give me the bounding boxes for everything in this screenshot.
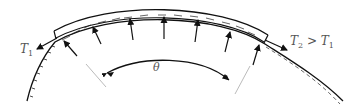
normal-force-arrow [64, 41, 77, 56]
belt-friction-diagram: T1 T2 > T1 θ [0, 0, 360, 111]
surface-hatching-left [30, 46, 55, 97]
normal-force-arrow [253, 45, 259, 65]
radial-line-left [86, 64, 106, 87]
normal-force-arrow [225, 32, 230, 52]
normal-force-arrow [130, 19, 133, 40]
normal-force-arrow [195, 20, 198, 42]
belt-left-end [54, 31, 56, 39]
angle-arc [107, 60, 229, 80]
label-theta: θ [153, 61, 160, 74]
surface-dashed-right [266, 47, 340, 104]
radial-line-right [235, 66, 250, 94]
belt-right-end [264, 35, 268, 43]
normal-force-arrow [93, 27, 101, 44]
label-t2-greater-t1: T2 > T1 [290, 34, 334, 50]
drum-surface [27, 20, 343, 101]
label-t1: T1 [20, 42, 33, 58]
